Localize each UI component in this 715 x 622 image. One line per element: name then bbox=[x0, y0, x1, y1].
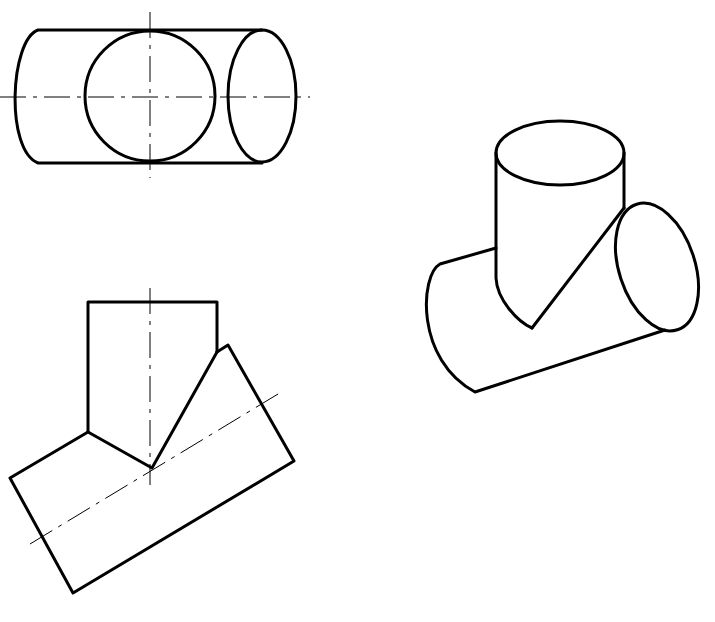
inclined-centerline bbox=[30, 391, 283, 544]
engineering-drawing bbox=[0, 0, 715, 622]
branch-top-ellipse bbox=[496, 121, 624, 185]
front-view bbox=[10, 288, 294, 593]
cylinder-end-ellipse bbox=[228, 30, 296, 162]
isometric-view bbox=[426, 121, 713, 392]
intersection-line bbox=[532, 208, 624, 328]
branch-cylinder-circle bbox=[85, 31, 215, 161]
branch-cylinder-sides bbox=[496, 153, 624, 328]
main-cylinder-body bbox=[426, 248, 665, 392]
intersection-curve bbox=[88, 352, 217, 468]
branch-cylinder-outline bbox=[88, 302, 217, 432]
top-view bbox=[0, 12, 310, 178]
